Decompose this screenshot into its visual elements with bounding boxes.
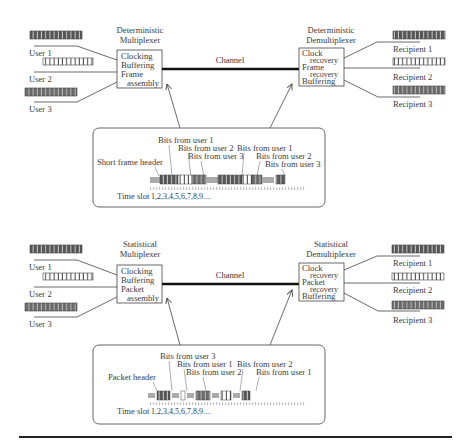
time-slot-values: 1,2,3,4,5,6,7,8,9.... [151,192,211,201]
recipient1-bit-stream [392,245,444,253]
recipient2-label: Recipient 2 [393,285,432,295]
user2-bit-stream [43,273,93,280]
user1-label: User 1 [29,48,52,58]
mux-function-assembly: assembly [127,78,160,88]
header-label: Packet header [108,372,156,382]
recipient2-bit-stream [392,273,444,280]
recipient2-label: Recipient 2 [393,72,432,82]
demux-function-buffering: Buffering [302,291,336,301]
recipient3-label: Recipient 3 [393,315,432,325]
user3-bit-stream [25,88,77,96]
demux-title-line2: Demultiplexer [306,249,356,259]
recipient3-line-diag [344,80,378,97]
demux-title-line2: Demultiplexer [306,35,356,45]
user3-label: User 3 [29,319,52,329]
user1-bit-stream [30,245,82,253]
recipient3-label: Recipient 3 [393,99,432,109]
recipient1-label: Recipient 1 [393,258,432,268]
user3-line-diag [77,297,117,317]
arrow-to-demux [270,290,292,345]
user1-bit-stream [30,31,82,39]
user1-label: User 1 [29,262,52,272]
recipient1-label: Recipient 1 [393,44,432,54]
header-label: Short frame header [97,157,163,167]
channel-label: Channel [216,55,245,65]
deterministic-panel: User 1 User 2 User 3 Deterministic Multi… [25,25,445,207]
recipient1-bit-stream [393,31,445,39]
multiplexing-diagram: User 1 User 2 User 3 Deterministic Multi… [0,0,469,443]
arrow-to-mux [167,84,180,128]
mux-title-line2: Multiplexer [120,249,161,259]
mux-title-line1: Deterministic [117,25,164,35]
recipient3-bit-stream [393,86,445,94]
demux-title-line1: Deterministic [308,25,355,35]
demux-title-line1: Statistical [314,239,349,249]
bits-label-user1-b: Bits from user 1 [256,367,312,377]
bits-label-user3-a: Bits from user 3 [188,151,244,161]
bits-label-user2-a: Bits from user 2 [186,367,242,377]
time-slot-values: 1,2,3,4,5,6,7,8,9.... [151,407,211,416]
user2-bit-stream [43,58,93,65]
user3-line-diag [77,82,117,102]
recipient3-line-diag [344,293,378,311]
user3-bit-stream [25,303,77,311]
recipient2-bit-stream [393,58,445,65]
mux-title-line2: Multiplexer [120,35,161,45]
mux-function-assembly: assembly [127,293,160,303]
statistical-panel: User 1 User 2 User 3 Statistical Multipl… [25,239,444,424]
time-slot-label: Time slot [117,191,150,201]
mux-title-line1: Statistical [123,239,158,249]
arrow-to-mux [167,298,180,345]
demux-function-buffering: Buffering [302,76,336,86]
recipient3-bit-stream [392,301,444,309]
arrow-to-demux [270,84,292,128]
bits-label-user3-b: Bits from user 3 [265,159,321,169]
user2-label: User 2 [29,74,52,84]
user3-label: User 3 [29,104,52,114]
channel-label: Channel [216,270,245,280]
user2-label: User 2 [29,289,52,299]
time-slot-label: Time slot [117,406,150,416]
